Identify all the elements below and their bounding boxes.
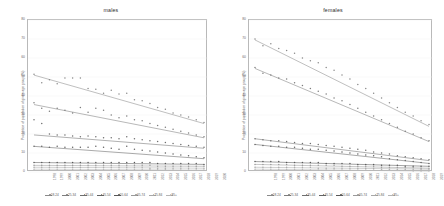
y-tick-label: 30	[13, 112, 25, 116]
x-tick-label: 2016	[416, 173, 420, 191]
x-tick-label: 2006	[114, 173, 118, 191]
legend-label: 18-24	[273, 193, 281, 197]
x-tick-label: 2002	[84, 173, 88, 191]
x-tick-label: 2019	[440, 173, 444, 191]
y-tick-label: 0	[13, 169, 25, 173]
x-tick-label: 2009	[138, 173, 142, 191]
legend-item: 55-64	[336, 193, 350, 197]
x-tick-label: 2003	[91, 173, 95, 191]
y-tick-label: 10	[13, 150, 25, 154]
x-tick-label: 2009	[361, 173, 365, 191]
x-tick-label: 2014	[176, 173, 180, 191]
panel-females: females Proportion of population of give…	[222, 0, 444, 206]
x-tick-label: 2015	[184, 173, 188, 191]
y-tick-label: 70	[13, 36, 25, 40]
plot-svg-males	[28, 20, 208, 172]
x-tick-label: 2005	[329, 173, 333, 191]
x-tick-label: 1998	[274, 173, 278, 191]
x-tick-label: 2004	[321, 173, 325, 191]
legend-label: 85+	[171, 193, 176, 197]
legend-item: 85+	[388, 193, 399, 197]
x-tick-label: 2012	[161, 173, 165, 191]
legend-label: 35-44	[85, 193, 93, 197]
x-tick-label: 2002	[305, 173, 309, 191]
legend-females: 18-2425-3435-4445-5455-6465-7475-8485+	[222, 193, 444, 197]
plot-area-males	[27, 19, 207, 171]
legend-label: 65-74	[359, 193, 367, 197]
legend-item: 25-34	[284, 193, 298, 197]
x-tick-label: 2017	[199, 173, 203, 191]
y-tick-label: 60	[13, 55, 25, 59]
x-tick-label: 2013	[392, 173, 396, 191]
legend-item: 75-84	[149, 193, 163, 197]
legend-label: 65-74	[137, 193, 145, 197]
panel-title-males: males	[0, 7, 222, 13]
x-tick-label: 2015	[408, 173, 412, 191]
legend-label: 75-84	[376, 193, 384, 197]
x-tick-label: 2010	[369, 173, 373, 191]
x-tick-label: 2001	[297, 173, 301, 191]
legend-label: 75-84	[154, 193, 162, 197]
x-tick-label: 2018	[432, 173, 436, 191]
y-axis-title-males: Proportion of population of given age gr…	[21, 30, 25, 140]
legend-item: 65-74	[131, 193, 145, 197]
chart-figure: males Proportion of population of given …	[0, 0, 444, 206]
legend-label: 45-54	[324, 193, 332, 197]
x-tick-label: 2000	[289, 173, 293, 191]
x-tick-label: 2013	[169, 173, 173, 191]
legend-label: 25-34	[290, 193, 298, 197]
y-tick-label: 50	[13, 74, 25, 78]
y-tick-label: 50	[234, 74, 246, 78]
legend-item: 18-24	[267, 193, 281, 197]
legend-item: 35-44	[302, 193, 316, 197]
legend-label: 25-34	[68, 193, 76, 197]
legend-label: 85+	[393, 193, 398, 197]
plot-area-females	[248, 19, 432, 171]
legend-item: 45-54	[97, 193, 111, 197]
x-tick-label: 2000	[68, 173, 72, 191]
y-tick-label: 0	[234, 169, 246, 173]
y-tick-label: 70	[234, 36, 246, 40]
x-tick-label: 2008	[130, 173, 134, 191]
x-tick-label: 2011	[153, 173, 157, 191]
x-tick-label: 2001	[76, 173, 80, 191]
x-tick-label: 2006	[337, 173, 341, 191]
x-tick-label: 2011	[376, 173, 380, 191]
legend-item: 55-64	[114, 193, 128, 197]
x-tick-label: 2007	[345, 173, 349, 191]
x-tick-label: 2005	[107, 173, 111, 191]
x-tick-label: 2003	[313, 173, 317, 191]
y-tick-label: 60	[234, 55, 246, 59]
x-tick-label: 2007	[122, 173, 126, 191]
x-tick-label: 2004	[99, 173, 103, 191]
y-tick-label: 20	[234, 131, 246, 135]
panel-males: males Proportion of population of given …	[0, 0, 222, 206]
y-tick-label: 80	[234, 17, 246, 21]
x-tick-label: 1998	[53, 173, 57, 191]
panel-title-females: females	[222, 7, 444, 13]
x-tick-label: 2016	[192, 173, 196, 191]
legend-label: 55-64	[120, 193, 128, 197]
legend-label: 55-64	[342, 193, 350, 197]
y-tick-label: 30	[234, 112, 246, 116]
legend-label: 18-24	[51, 193, 59, 197]
y-tick-label: 10	[234, 150, 246, 154]
plot-svg-females	[249, 20, 433, 172]
legend-label: 45-54	[102, 193, 110, 197]
x-tick-label: 2019	[215, 173, 219, 191]
legend-label: 35-44	[307, 193, 315, 197]
y-tick-label: 40	[234, 93, 246, 97]
y-tick-label: 20	[13, 131, 25, 135]
x-tick-label: 2008	[353, 173, 357, 191]
y-tick-label: 40	[13, 93, 25, 97]
legend-item: 75-84	[371, 193, 385, 197]
legend-item: 85+	[166, 193, 177, 197]
x-tick-label: 1999	[60, 173, 64, 191]
y-axis-title-females: Proportion of population of given age gr…	[242, 30, 246, 140]
x-tick-label: 2018	[207, 173, 211, 191]
legend-item: 25-34	[62, 193, 76, 197]
y-tick-label: 80	[13, 17, 25, 21]
legend-item: 45-54	[319, 193, 333, 197]
legend-males: 18-2425-3435-4445-5455-6465-7475-8485+	[0, 193, 222, 197]
x-tick-label: 2012	[384, 173, 388, 191]
